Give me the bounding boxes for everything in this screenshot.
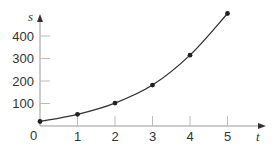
x-tick-label: 4 xyxy=(186,129,193,144)
data-curve xyxy=(40,14,228,122)
y-axis-label: s xyxy=(28,9,33,24)
y-tick-label: 200 xyxy=(12,74,34,89)
origin-label: 0 xyxy=(30,128,37,143)
data-point xyxy=(150,83,155,88)
data-point xyxy=(188,53,193,58)
x-tick-label: 5 xyxy=(224,129,231,144)
chart: 12345100200300400 0 s t xyxy=(0,0,278,149)
x-tick-label: 3 xyxy=(149,129,156,144)
x-axis-label: t xyxy=(256,129,260,144)
data-point xyxy=(38,119,43,124)
axes xyxy=(37,14,266,129)
data-point xyxy=(225,11,230,16)
x-tick-label: 2 xyxy=(111,129,118,144)
x-tick-label: 1 xyxy=(74,129,81,144)
data-points xyxy=(38,11,230,124)
y-tick-label: 300 xyxy=(12,51,34,66)
y-axis-arrow-icon xyxy=(37,14,43,22)
data-point xyxy=(75,112,80,117)
y-tick-label: 100 xyxy=(12,96,34,111)
y-tick-label: 400 xyxy=(12,29,34,44)
data-point xyxy=(113,101,118,106)
